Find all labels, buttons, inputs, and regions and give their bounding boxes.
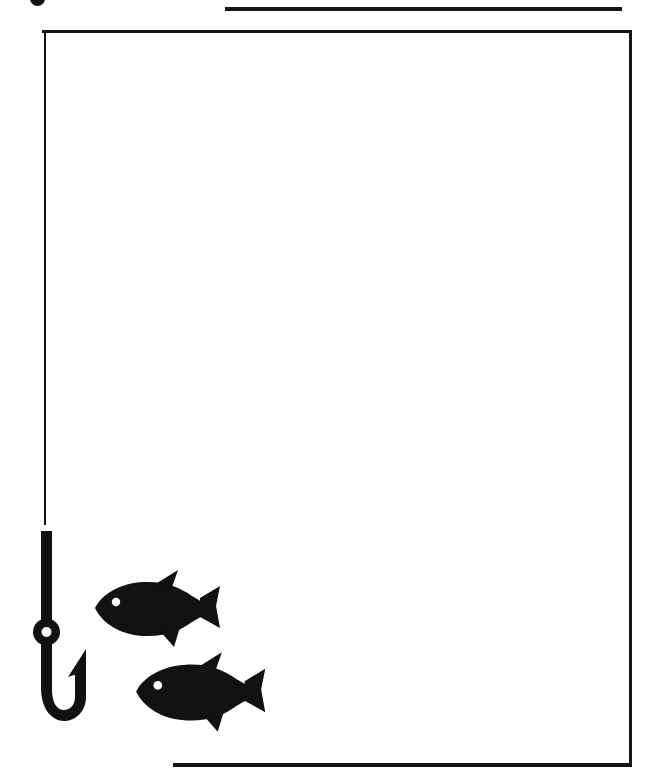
fish-upper-icon	[92, 568, 242, 648]
top-edge-ink-blob	[30, 0, 45, 6]
top-horizontal-rule	[225, 7, 622, 11]
content-frame-right-border	[629, 30, 632, 766]
fish-hook-icon	[18, 525, 98, 725]
scanned-page	[0, 0, 659, 784]
fish-lower-icon	[133, 650, 288, 733]
bottom-horizontal-rule	[173, 763, 632, 767]
content-frame-top-border	[42, 30, 632, 33]
content-frame-left-border	[44, 31, 46, 525]
